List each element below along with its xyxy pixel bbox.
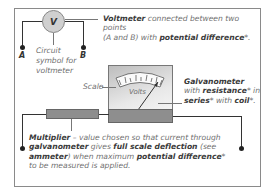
leader-galvanometer — [158, 103, 182, 104]
coil-term: coil — [234, 96, 249, 105]
terminal-b-dot — [81, 45, 86, 50]
galvanometer-term-2: galvanometer — [29, 142, 88, 151]
wire-right-top — [173, 116, 242, 117]
voltmeter-symbol-letter: V — [50, 17, 57, 27]
leader-multiplier — [71, 119, 72, 131]
symbol-caption-line1: Circuit — [36, 46, 76, 56]
voltmeter-description: Voltmeter connected between two points (… — [103, 14, 263, 42]
terminal-a-dot — [20, 45, 25, 50]
ammeter-term: ammeter — [29, 152, 68, 161]
wire-a-down — [22, 21, 23, 47]
wire-b-top — [64, 21, 84, 22]
leader-scale — [102, 87, 116, 88]
leader-voltmeter-text — [65, 19, 98, 20]
series-term: series — [184, 96, 210, 105]
resistance-term: resistance — [203, 86, 247, 95]
galvanometer-description: Galvanometer with resistance* in series*… — [184, 77, 264, 105]
terminal-a-label: A — [19, 51, 25, 60]
symbol-caption-line2: symbol for — [36, 56, 76, 66]
symbol-caption-line3: voltmeter — [36, 66, 76, 76]
wire-left-down — [22, 114, 23, 148]
leader-symbol-caption — [53, 33, 54, 45]
wire-b-down — [83, 21, 84, 47]
galvanometer-term: Galvanometer — [184, 77, 244, 86]
galvanometer-base — [108, 109, 173, 123]
potential-difference-term-2: potential difference — [137, 152, 222, 161]
wire-resistor-galv — [99, 114, 109, 115]
terminal-left-dot — [20, 146, 25, 151]
multiplier-description: Multiplier – value chosen so that curren… — [29, 133, 244, 171]
wire-left-top — [22, 114, 47, 115]
full-scale-deflection-term: full scale deflection — [113, 142, 197, 151]
scale-label: Scale — [83, 82, 103, 91]
voltmeter-term: Voltmeter — [103, 14, 145, 23]
galvanometer-dial-label: Volts — [129, 88, 146, 96]
multiplier-term: Multiplier — [29, 133, 70, 142]
terminal-b-label: B — [80, 51, 86, 60]
voltmeter-symbol-icon: V — [42, 10, 65, 33]
wire-a-top — [22, 21, 43, 22]
multiplier-resistor — [46, 109, 99, 119]
symbol-caption: Circuit symbol for voltmeter — [36, 46, 76, 76]
potential-difference-term: potential difference — [159, 33, 244, 42]
